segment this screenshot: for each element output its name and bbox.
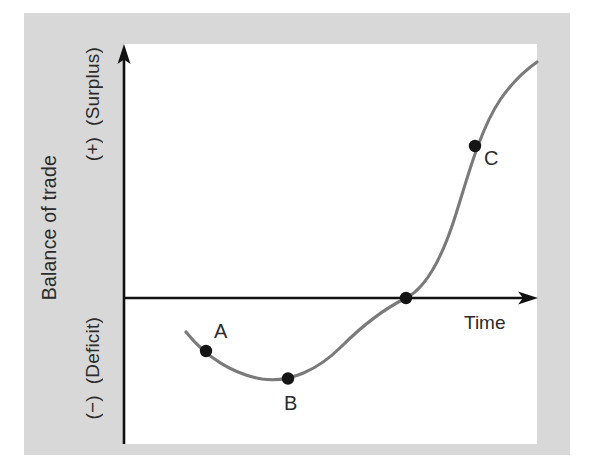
datapoint-b-label: B	[284, 392, 297, 414]
chart-svg: A B C Time	[0, 0, 594, 475]
datapoint-a-marker	[200, 345, 212, 357]
datapoint-c-label: C	[484, 147, 498, 169]
datapoint-b-marker	[282, 372, 294, 384]
datapoint-a-label: A	[214, 320, 228, 342]
datapoint-c-marker	[469, 140, 481, 152]
x-axis-title: Time	[464, 312, 506, 333]
datapoint-zero-crossing-marker	[400, 292, 412, 304]
figure-root: Balance of trade (+) (Surplus) (−) (Defi…	[0, 0, 594, 475]
